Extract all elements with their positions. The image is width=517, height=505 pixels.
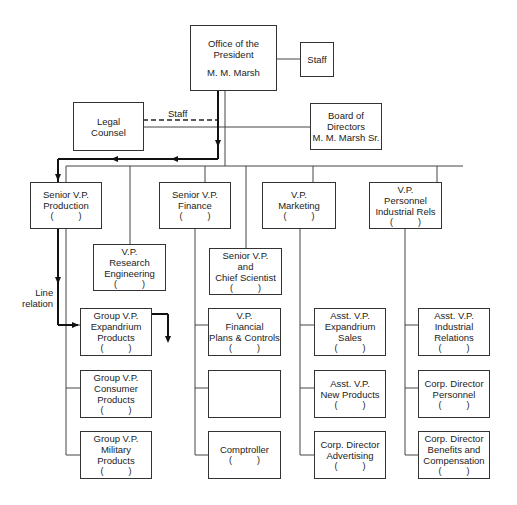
box-placeholder: ( ) — [284, 211, 315, 222]
box-line: Research — [109, 257, 150, 268]
box-line: Comptroller — [220, 444, 269, 455]
box-line: Plans & Controls — [209, 332, 280, 343]
box-line: Finance — [178, 200, 212, 211]
box-placeholder: ( ) — [101, 466, 132, 477]
box-line: Compensation — [423, 455, 484, 466]
box-line: M. M. Marsh Sr. — [312, 132, 379, 143]
box-line: Office of the — [208, 38, 259, 49]
box-line: Group V.P. — [94, 372, 139, 383]
box-line: Group V.P. — [94, 433, 139, 444]
box-line: Products — [97, 332, 135, 343]
vp-personnel-box: V.P. Personnel Industrial Rels ( ) — [369, 182, 442, 229]
vp-research-box: V.P. Research Engineering ( ) — [93, 244, 166, 291]
gvp-military-box: Group V.P. Military Products ( ) — [80, 431, 152, 479]
box-line: Asst. V.P. — [330, 310, 370, 321]
box-line: Expandrium — [325, 321, 376, 332]
box-line: Products — [97, 394, 135, 405]
box-line: Engineering — [104, 268, 155, 279]
comptroller-box: Comptroller ( ) — [208, 431, 281, 479]
svp-finance-box: Senior V.P. Finance ( ) — [159, 182, 231, 229]
box-line: Senior V.P. — [43, 189, 89, 200]
box-line: Advertising — [327, 450, 374, 461]
box-line: Asst. V.P. — [330, 378, 370, 389]
box-placeholder: ( ) — [229, 343, 260, 354]
box-line: Industrial Rels — [375, 206, 435, 217]
vp-financial-plans-box: V.P. Financial Plans & Controls ( ) — [208, 308, 281, 356]
line-relation-line2: relation — [22, 298, 53, 309]
box-line: President — [213, 49, 253, 60]
box-line: Asst. V.P. — [434, 310, 474, 321]
box-line: Chief Scientist — [215, 272, 276, 283]
box-placeholder: ( ) — [180, 211, 211, 222]
svp-chief-scientist-box: Senior V.P. and Chief Scientist ( ) — [209, 248, 282, 295]
box-line: Board of — [328, 110, 364, 121]
box-line: Personnel — [433, 389, 476, 400]
box-line: Industrial — [435, 321, 474, 332]
box-line: Production — [43, 200, 88, 211]
svp-production-box: Senior V.P. Production ( ) — [30, 182, 102, 229]
gvp-consumer-box: Group V.P. Consumer Products ( ) — [80, 370, 152, 418]
box-line: Corp. Director — [424, 378, 483, 389]
gvp-expandrium-box: Group V.P. Expandrium Products ( ) — [80, 308, 152, 356]
box-line: Marketing — [278, 200, 320, 211]
line-relation-line1: Line — [22, 287, 53, 298]
box-line: Senior V.P. — [223, 250, 269, 261]
box-line: V.P. — [237, 310, 253, 321]
box-line: Group V.P. — [94, 310, 139, 321]
box-line: Expandrium — [91, 321, 142, 332]
box-line: Personnel — [384, 195, 427, 206]
box-line: Relations — [434, 332, 474, 343]
box-line: V.P. — [291, 189, 307, 200]
box-line: New Products — [320, 389, 379, 400]
box-placeholder: ( ) — [335, 400, 366, 411]
staff-box: Staff — [300, 42, 334, 77]
staff-dashed-label: Staff — [168, 108, 187, 119]
cd-personnel-box: Corp. Director Personnel ( ) — [418, 370, 490, 418]
box-placeholder: ( ) — [439, 343, 470, 354]
vp-marketing-box: V.P. Marketing ( ) — [262, 182, 336, 229]
blank-box — [208, 370, 281, 418]
box-line: Military — [101, 444, 131, 455]
box-line: Corp. Director — [424, 433, 483, 444]
board-of-directors-box: Board of Directors M. M. Marsh Sr. — [310, 103, 382, 150]
box-line: Senior V.P. — [172, 189, 218, 200]
line-relation-label: Line relation — [22, 287, 53, 309]
cd-advertising-box: Corp. Director Advertising ( ) — [314, 431, 386, 479]
box-line: V.P. — [398, 184, 414, 195]
box-line: Corp. Director — [320, 439, 379, 450]
legal-counsel-box: Legal Counsel — [73, 102, 144, 151]
box-line: Directors — [327, 121, 365, 132]
box-placeholder: ( ) — [229, 455, 260, 466]
box-line: Legal — [97, 116, 120, 127]
box-placeholder: ( ) — [101, 405, 132, 416]
box-placeholder: ( ) — [439, 466, 470, 477]
box-placeholder: ( ) — [390, 217, 421, 228]
box-line: Consumer — [94, 383, 138, 394]
cd-benefits-box: Corp. Director Benefits and Compensation… — [418, 431, 490, 479]
box-line: Financial — [225, 321, 263, 332]
box-placeholder: ( ) — [439, 400, 470, 411]
box-line: Products — [97, 455, 135, 466]
box-placeholder: ( ) — [335, 461, 366, 472]
box-line: and — [238, 261, 254, 272]
box-placeholder: ( ) — [230, 283, 261, 294]
avp-industrial-relations-box: Asst. V.P. Industrial Relations ( ) — [418, 308, 490, 356]
president-box: Office of the President M. M. Marsh — [190, 25, 277, 91]
box-line: Counsel — [91, 127, 126, 138]
box-line: Staff — [307, 54, 326, 65]
avp-new-products-box: Asst. V.P. New Products ( ) — [314, 370, 386, 418]
box-line: Benefits and — [428, 444, 481, 455]
box-placeholder: ( ) — [101, 343, 132, 354]
box-placeholder: ( ) — [51, 211, 82, 222]
box-line: Sales — [338, 332, 362, 343]
box-placeholder: ( ) — [335, 343, 366, 354]
box-placeholder: ( ) — [114, 279, 145, 290]
box-line: V.P. — [122, 246, 138, 257]
avp-expandrium-sales-box: Asst. V.P. Expandrium Sales ( ) — [314, 308, 386, 356]
box-line: M. M. Marsh — [207, 67, 260, 78]
